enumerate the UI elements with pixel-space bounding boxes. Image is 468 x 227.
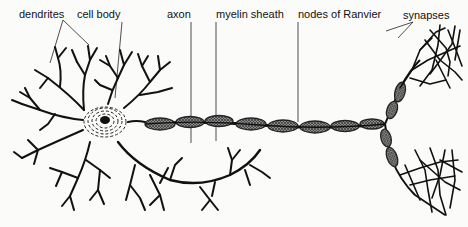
myelin-sheath	[145, 116, 384, 134]
neuron-illustration	[0, 0, 468, 227]
label-axon: axon	[167, 8, 191, 20]
label-cell-body: cell body	[77, 8, 120, 20]
nucleus	[100, 116, 110, 124]
label-myelin-sheath: myelin sheath	[216, 8, 284, 20]
label-synapses: synapses	[403, 9, 449, 21]
synapses	[400, 25, 462, 215]
cell-body	[81, 99, 129, 144]
label-nodes-of-ranvier: nodes of Ranvier	[298, 8, 381, 20]
label-dendrites: dendrites	[19, 8, 64, 20]
neuron-diagram: dendrites cell body axon myelin sheath n…	[0, 0, 468, 227]
dendrites	[12, 46, 270, 210]
